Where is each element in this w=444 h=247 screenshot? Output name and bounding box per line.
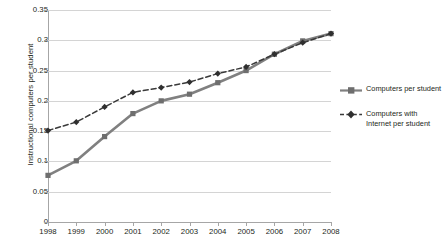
x-tick-label: 2008 xyxy=(314,228,348,236)
legend-item-series2[interactable]: Computers with Internet per student xyxy=(340,109,444,129)
data-point-square xyxy=(130,111,135,116)
data-point-diamond xyxy=(186,79,192,85)
y-tick-label: 0.05 xyxy=(6,188,48,196)
y-tick-label: 0 xyxy=(6,218,48,226)
data-point-diamond xyxy=(158,84,164,90)
x-tick-mark xyxy=(133,222,134,226)
legend-label-series2: Computers with Internet per student xyxy=(366,109,444,129)
data-point-diamond xyxy=(130,89,136,95)
legend-swatch-dashed-diamond-icon xyxy=(340,109,362,120)
y-tick-label: 0.3 xyxy=(6,36,48,44)
y-tick-label: 0.35 xyxy=(6,6,48,14)
x-tick-mark xyxy=(190,222,191,226)
y-tick-label: 0.25 xyxy=(6,67,48,75)
data-point-square xyxy=(74,158,79,163)
chart-legend: Computers per student Computers with Int… xyxy=(340,84,444,142)
y-axis-ticks: 00.050.10.150.20.250.30.35 xyxy=(0,10,48,222)
x-tick-mark xyxy=(48,222,49,226)
legend-label-series1: Computers per student xyxy=(366,84,441,94)
data-point-diamond xyxy=(215,71,221,77)
x-tick-mark xyxy=(274,222,275,226)
x-tick-mark xyxy=(161,222,162,226)
y-tick-label: 0.2 xyxy=(6,97,48,105)
x-tick-mark xyxy=(105,222,106,226)
x-tick-mark xyxy=(76,222,77,226)
data-point-square xyxy=(45,173,50,178)
plot-area xyxy=(48,10,331,222)
data-point-square xyxy=(215,80,220,85)
line-chart: Instructional computers per student 00.0… xyxy=(0,0,444,247)
data-point-diamond xyxy=(73,119,79,125)
legend-item-series1[interactable]: Computers per student xyxy=(340,84,444,96)
x-tick-mark xyxy=(303,222,304,226)
data-point-diamond xyxy=(102,104,108,110)
x-tick-mark xyxy=(331,222,332,226)
series-layer xyxy=(48,10,331,222)
series-1 xyxy=(45,31,333,178)
data-point-square xyxy=(102,134,107,139)
x-axis-ticks: 1998199920002001200220032004200520062007… xyxy=(48,222,331,244)
data-point-square xyxy=(187,92,192,97)
y-tick-label: 0.1 xyxy=(6,157,48,165)
x-tick-mark xyxy=(218,222,219,226)
y-tick-label: 0.15 xyxy=(6,127,48,135)
legend-swatch-solid-square-icon xyxy=(340,85,362,96)
series-line xyxy=(48,34,331,176)
data-point-square xyxy=(159,98,164,103)
x-tick-mark xyxy=(246,222,247,226)
